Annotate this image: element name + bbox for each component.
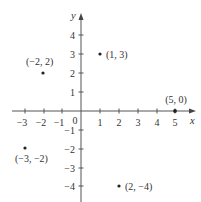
point-neg2-2: (−2, 2): [26, 56, 53, 75]
svg-text:−2: −2: [64, 144, 75, 155]
svg-text:−4: −4: [64, 181, 75, 192]
svg-text:−1: −1: [54, 117, 65, 128]
svg-text:(5, 0): (5, 0): [165, 94, 187, 106]
svg-text:3: 3: [70, 49, 75, 60]
point-5-0: (5, 0): [165, 94, 187, 113]
svg-text:4: 4: [155, 117, 160, 128]
point-marker-icon: [23, 146, 26, 149]
x-axis-label: x: [189, 115, 195, 126]
svg-text:(−2, 2): (−2, 2): [26, 56, 53, 68]
svg-text:3: 3: [136, 117, 141, 128]
svg-text:1: 1: [70, 87, 75, 98]
coordinate-plane: x y −3 −2 −1 0 1 2 3 4 5 4 3 2 1: [0, 0, 201, 202]
svg-text:5: 5: [173, 117, 178, 128]
y-axis-label: y: [70, 10, 76, 21]
point-marker-icon: [41, 71, 44, 74]
svg-text:2: 2: [117, 117, 122, 128]
svg-text:(−3, −2): (−3, −2): [15, 153, 48, 165]
svg-text:−3: −3: [64, 163, 75, 174]
point-neg3-neg2: (−3, −2): [15, 146, 48, 165]
x-axis-arrow-icon: [189, 109, 196, 114]
point-1-3: (1, 3): [98, 49, 127, 61]
svg-text:−2: −2: [36, 117, 47, 128]
point-marker-icon: [173, 109, 177, 113]
point-marker-icon: [117, 184, 120, 187]
svg-text:−1: −1: [64, 125, 75, 136]
point-2-neg4: (2, −4): [117, 181, 152, 193]
svg-text:2: 2: [70, 68, 75, 79]
x-tick-labels: −3 −2 −1 0 1 2 3 4 5: [17, 115, 178, 128]
svg-text:(2, −4): (2, −4): [125, 181, 152, 193]
svg-text:(1, 3): (1, 3): [106, 49, 128, 61]
svg-text:−3: −3: [17, 117, 28, 128]
y-axis-arrow-icon: [79, 13, 84, 20]
svg-text:1: 1: [98, 117, 103, 128]
point-marker-icon: [98, 52, 101, 55]
svg-text:4: 4: [70, 30, 75, 41]
